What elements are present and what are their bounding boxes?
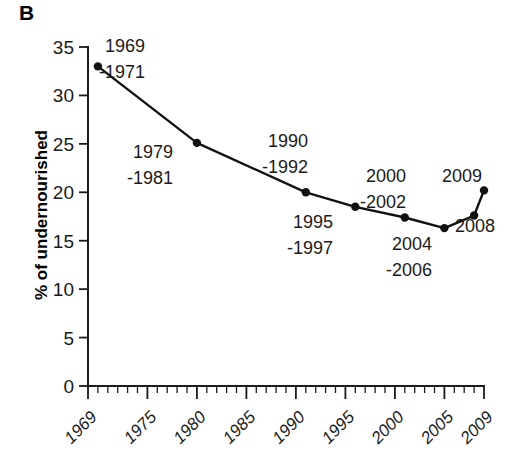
y-axis-ticks: [79, 47, 88, 386]
data-point-annotations: 1969-19711979-19811990-19921995-19972000…: [99, 36, 495, 280]
point-annotation-line1: 2004: [392, 234, 432, 254]
data-point-marker: [480, 186, 488, 194]
point-annotation-line1: 1995: [293, 212, 333, 232]
point-annotation-line2: -1971: [99, 62, 145, 82]
x-tick-label: 2005: [416, 407, 457, 448]
point-annotation-line1: 2008: [455, 216, 495, 236]
point-annotation-line2: -2002: [360, 192, 406, 212]
y-tick-label: 0: [63, 376, 74, 397]
y-tick-label: 35: [53, 37, 74, 58]
point-annotation-line2: -1997: [287, 238, 333, 258]
y-tick-label: 30: [53, 85, 74, 106]
point-annotation-line2: -1981: [127, 168, 173, 188]
point-annotation-line1: 2000: [366, 166, 406, 186]
point-annotation-line1: 2009: [442, 166, 482, 186]
y-tick-label: 10: [53, 279, 74, 300]
data-point-marker: [193, 139, 201, 147]
x-tick-label: 2009: [456, 407, 497, 448]
x-tick-label: 1980: [170, 407, 211, 448]
y-tick-label: 20: [53, 182, 74, 203]
x-axis-ticks: [88, 386, 484, 399]
point-annotation-line2: -1992: [262, 157, 308, 177]
x-tick-label: 1985: [219, 407, 260, 448]
y-tick-label: 5: [63, 328, 74, 349]
x-tick-label: 1969: [61, 407, 102, 448]
data-point-marker: [302, 188, 310, 196]
y-tick-label: 15: [53, 231, 74, 252]
x-tick-label: 1975: [120, 407, 161, 448]
y-axis-tick-labels: 05101520253035: [53, 37, 74, 397]
x-tick-label: 1990: [269, 407, 310, 448]
figure-panel-b: B % of undernourished 05101520253035 196…: [0, 0, 512, 450]
data-point-marker: [351, 203, 359, 211]
x-tick-label: 1995: [318, 407, 359, 448]
y-tick-label: 25: [53, 134, 74, 155]
data-point-marker: [440, 224, 448, 232]
point-annotation-line2: -2006: [386, 260, 432, 280]
data-point-marker: [401, 213, 409, 221]
x-axis-tick-labels: 196919751980198519901995200020052009: [61, 407, 498, 448]
line-chart-plot: 05101520253035 1969197519801985199019952…: [0, 0, 512, 450]
point-annotation-line1: 1979: [133, 142, 173, 162]
point-annotation-line1: 1990: [268, 131, 308, 151]
point-annotation-line1: 1969: [105, 36, 145, 56]
x-tick-label: 2000: [367, 407, 408, 448]
